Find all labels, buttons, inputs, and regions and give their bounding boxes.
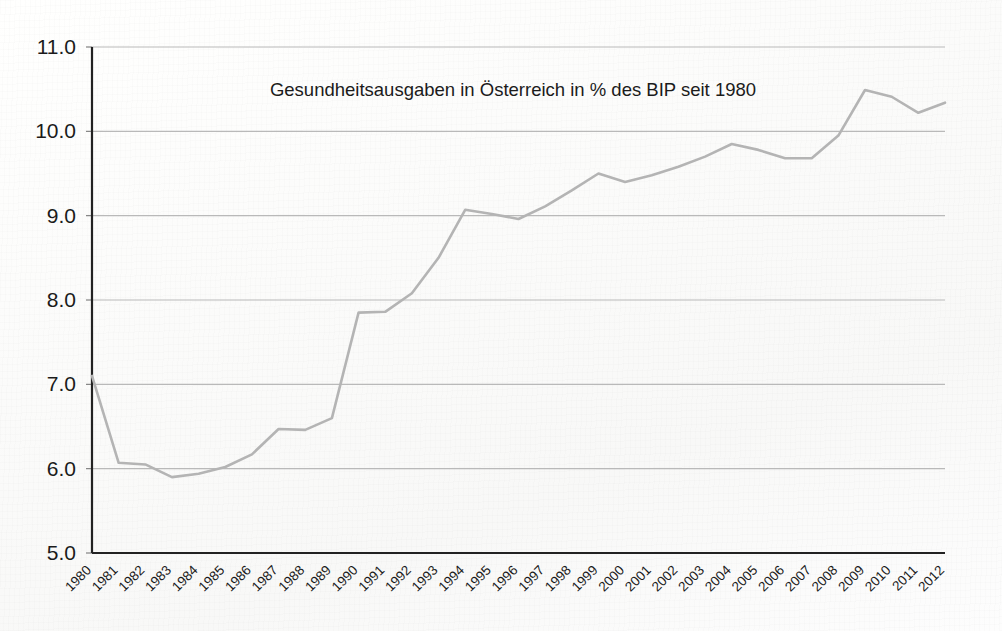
- x-axis-tick-label: 1999: [569, 563, 601, 595]
- x-axis-tick-label: 2003: [675, 563, 707, 595]
- x-axis-tick-label: 1982: [116, 563, 148, 595]
- x-axis-tick-labels: 1980198119821983198419851986198719881989…: [62, 562, 947, 594]
- x-axis-tick-label: 2012: [915, 563, 947, 595]
- x-axis-tick-label: 2005: [729, 563, 761, 595]
- y-axis-tick-label: 10.0: [35, 119, 76, 142]
- y-axis-tick-labels: 11.010.09.08.07.06.05.0: [35, 35, 76, 564]
- x-axis-tick-label: 1985: [196, 563, 228, 595]
- x-axis-tick-label: 1991: [355, 563, 387, 595]
- x-axis-tick-label: 1988: [276, 563, 308, 595]
- x-axis-tick-label: 1980: [62, 563, 94, 595]
- x-axis-tick-label: 1996: [489, 563, 521, 595]
- y-axis-tick-label: 5.0: [47, 541, 76, 564]
- x-axis-tick-label: 1994: [435, 562, 467, 594]
- x-axis-tick-label: 1995: [462, 563, 494, 595]
- x-axis-tick-label: 2009: [835, 563, 867, 595]
- x-axis-tick-label: 1983: [142, 563, 174, 595]
- x-axis-tick-label: 1998: [542, 563, 574, 595]
- x-axis-tick-label: 2010: [862, 563, 894, 595]
- x-axis-tick-label: 1984: [169, 562, 201, 594]
- x-axis-tick-label: 2000: [595, 563, 627, 595]
- x-axis-tick-label: 2004: [702, 562, 734, 594]
- y-axis-tick-label: 9.0: [47, 204, 76, 227]
- chart-canvas: 11.010.09.08.07.06.05.0 1980198119821983…: [0, 0, 1002, 631]
- line-chart: 11.010.09.08.07.06.05.0 1980198119821983…: [0, 0, 1002, 631]
- x-axis-tick-label: 1992: [382, 563, 414, 595]
- gridlines: [92, 47, 945, 469]
- x-axis-tick-label: 1993: [409, 563, 441, 595]
- x-axis-tick-label: 1981: [89, 563, 121, 595]
- x-axis-tick-label: 2001: [622, 563, 654, 595]
- y-axis-tick-label: 6.0: [47, 457, 76, 480]
- y-axis-tick-label: 11.0: [37, 35, 76, 58]
- x-axis-tick-label: 2011: [889, 563, 920, 594]
- y-axis-tick-label: 8.0: [47, 288, 76, 311]
- x-axis-tick-label: 2002: [649, 563, 681, 595]
- x-axis-tick-label: 1990: [329, 563, 361, 595]
- x-axis-tick-label: 2006: [755, 563, 787, 595]
- x-axis-tick-label: 1989: [302, 563, 334, 595]
- x-axis-tick-label: 1986: [222, 563, 254, 595]
- x-axis-tick-label: 1997: [515, 563, 547, 595]
- chart-title: Gesundheitsausgaben in Österreich in % d…: [270, 79, 756, 100]
- x-axis-tick-label: 2008: [809, 563, 841, 595]
- x-axis-tick-label: 2007: [782, 563, 814, 595]
- data-series-line: [92, 90, 945, 477]
- x-axis-tick-label: 1987: [249, 563, 281, 595]
- y-axis-tick-label: 7.0: [47, 372, 76, 395]
